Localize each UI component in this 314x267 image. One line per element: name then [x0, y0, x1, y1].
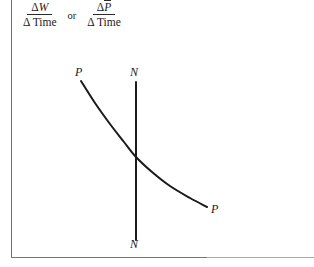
- figure-canvas: ΔW Δ Time or ΔP Δ Time P N P N: [0, 0, 314, 267]
- plot-area: [0, 0, 314, 267]
- nn-curve-label-bottom: N: [130, 238, 138, 250]
- nn-curve-label-top: N: [130, 66, 138, 78]
- pp-curve-label-top: P: [75, 66, 82, 78]
- pp-curve-label-bottom: P: [211, 203, 218, 215]
- pp-curve: [81, 81, 207, 207]
